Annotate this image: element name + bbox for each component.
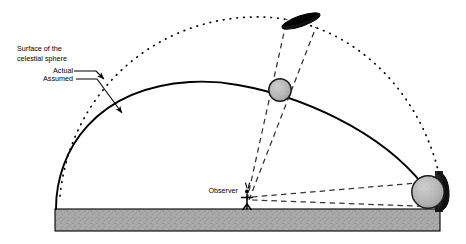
surface-label-line2: celestial sphere [17,54,67,63]
true-body-position-high [280,10,321,33]
sight-line-high-right [249,27,316,200]
body-high-texture [269,79,291,101]
surface-label-line1: Surface of the [17,44,62,53]
sight-line-horizon-lower [252,200,441,207]
observer-sight-tick-left [246,183,248,188]
celestial-sphere-refraction-diagram: Surface of the celestial sphere Actual A… [0,0,466,244]
actual-leader-line [74,71,104,79]
body-horizon-texture [412,176,444,208]
observer-label: Observer [208,186,238,195]
sight-line-high-left [247,19,287,200]
callout-leaders [74,71,122,113]
observer-head [245,189,249,193]
diagram-canvas: Surface of the celestial sphere Actual A… [0,0,466,244]
ground-band [55,209,440,231]
celestial-body-high-altitude [269,79,291,101]
ground-rect [55,209,440,231]
celestial-body-near-horizon [412,176,444,208]
observer-sight-lines [247,19,441,207]
assumed-label: Assumed [43,74,73,83]
